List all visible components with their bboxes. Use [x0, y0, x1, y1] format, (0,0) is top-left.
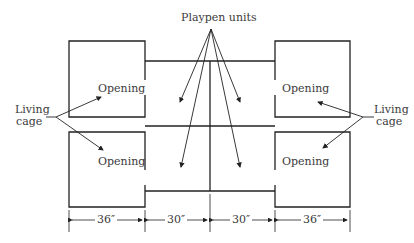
- opening-label-bottom-right: Opening: [282, 156, 329, 168]
- opening-label-top-left: Opening: [98, 83, 145, 95]
- right-bottom-living-cage: [275, 132, 350, 207]
- right-top-living-cage: [275, 41, 350, 117]
- playpen-units-label: Playpen units: [181, 12, 257, 24]
- playpen-units: [145, 61, 275, 191]
- left-bottom-living-cage: [69, 132, 145, 207]
- diagram-lines: [0, 0, 414, 243]
- opening-label-bottom-left: Opening: [98, 156, 145, 168]
- opening-label-top-right: Opening: [282, 83, 329, 95]
- dimension-left-playpen: 30″: [165, 214, 187, 226]
- left-top-living-cage: [69, 41, 145, 117]
- dimension-right-cage: 36″: [301, 214, 323, 226]
- right-living-cage-label-line2: cage: [376, 116, 402, 128]
- left-living-cage-label-line2: cage: [16, 116, 42, 128]
- playpen-layout-diagram: Playpen units Living cage Living cage Op…: [0, 0, 414, 243]
- dimension-right-playpen: 30″: [230, 214, 252, 226]
- dimension-left-cage: 36″: [95, 214, 117, 226]
